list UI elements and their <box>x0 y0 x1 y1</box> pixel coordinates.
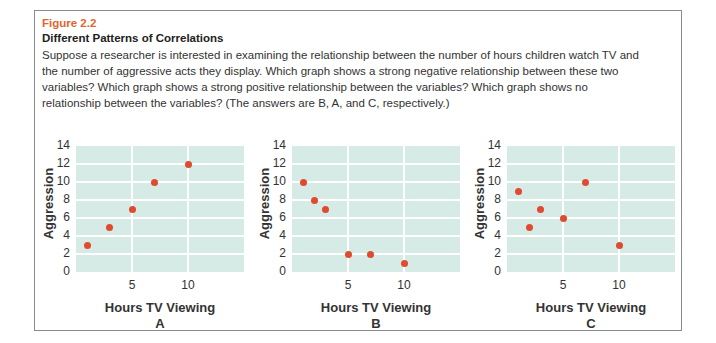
scatter-chart-a: 02468101214510AggressionHours TV Viewing… <box>34 138 249 328</box>
gridline-horizontal <box>292 163 460 165</box>
figure-number: Figure 2.2 <box>42 17 96 29</box>
data-point <box>560 215 567 222</box>
y-tick-label: 0 <box>268 264 286 278</box>
y-tick-label: 14 <box>483 138 501 152</box>
gridline-horizontal <box>292 253 460 255</box>
x-tick-label: 5 <box>548 278 578 292</box>
gridline-horizontal <box>76 163 244 165</box>
gridline-vertical <box>618 146 620 272</box>
plot-area <box>76 146 244 272</box>
data-point <box>322 206 329 213</box>
plot-area <box>292 146 460 272</box>
data-point <box>151 179 158 186</box>
figure-caption: Suppose a researcher is interested in ex… <box>42 47 642 111</box>
data-point <box>185 161 192 168</box>
data-point <box>300 179 307 186</box>
x-tick-label: 10 <box>173 278 203 292</box>
data-point <box>106 224 113 231</box>
y-axis-label: Aggression <box>257 164 272 244</box>
y-axis-label: Aggression <box>472 164 487 244</box>
gridline-horizontal <box>76 253 244 255</box>
x-axis-label: Hours TV Viewing <box>507 300 675 315</box>
gridline-horizontal <box>507 163 675 165</box>
y-tick-label: 14 <box>52 138 70 152</box>
y-tick-label: 2 <box>52 246 70 260</box>
gridline-horizontal <box>507 235 675 237</box>
gridline-horizontal <box>507 253 675 255</box>
gridline-horizontal <box>292 181 460 183</box>
y-tick-label: 0 <box>52 264 70 278</box>
panel-label: C <box>507 316 675 331</box>
x-tick-label: 5 <box>333 278 363 292</box>
y-tick-label: 2 <box>268 246 286 260</box>
x-tick-label: 10 <box>604 278 634 292</box>
gridline-horizontal <box>76 181 244 183</box>
y-tick-label: 0 <box>483 264 501 278</box>
gridline-horizontal <box>507 181 675 183</box>
y-tick-label: 14 <box>268 138 286 152</box>
figure-title: Different Patterns of Correlations <box>42 32 223 44</box>
x-axis-label: Hours TV Viewing <box>292 300 460 315</box>
gridline-horizontal <box>292 217 460 219</box>
x-tick-label: 10 <box>389 278 419 292</box>
data-point <box>515 188 522 195</box>
y-axis-label: Aggression <box>41 164 56 244</box>
gridline-horizontal <box>507 217 675 219</box>
panel-label: A <box>76 316 244 331</box>
data-point <box>311 197 318 204</box>
plot-area <box>507 146 675 272</box>
x-tick-label: 5 <box>117 278 147 292</box>
data-point <box>526 224 533 231</box>
gridline-horizontal <box>76 199 244 201</box>
y-tick-label: 2 <box>483 246 501 260</box>
data-point <box>537 206 544 213</box>
gridline-vertical <box>403 146 405 272</box>
scatter-chart-b: 02468101214510AggressionHours TV Viewing… <box>250 138 465 328</box>
gridline-horizontal <box>292 235 460 237</box>
data-point <box>129 206 136 213</box>
panel-label: B <box>292 316 460 331</box>
gridline-horizontal <box>76 235 244 237</box>
x-axis-label: Hours TV Viewing <box>76 300 244 315</box>
data-point <box>367 251 374 258</box>
data-point <box>616 242 623 249</box>
data-point <box>401 260 408 267</box>
gridline-vertical <box>562 146 564 272</box>
gridline-horizontal <box>76 217 244 219</box>
data-point <box>345 251 352 258</box>
data-point <box>84 242 91 249</box>
gridline-horizontal <box>507 199 675 201</box>
scatter-chart-c: 02468101214510AggressionHours TV Viewing… <box>465 138 680 328</box>
data-point <box>582 179 589 186</box>
